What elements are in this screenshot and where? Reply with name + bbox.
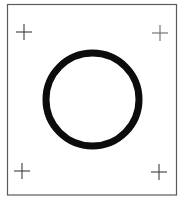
figure-canvas	[0, 0, 178, 200]
crosshair-icon-bottom-right	[151, 164, 167, 180]
frame-border	[8, 5, 177, 196]
ring-circle	[46, 53, 139, 146]
crosshair-icon-top-left	[16, 24, 32, 40]
crosshair-icon-top-right	[152, 25, 168, 41]
crosshair-icon-bottom-left	[14, 163, 30, 179]
figure-svg	[0, 0, 178, 200]
registration-marks	[14, 24, 168, 180]
